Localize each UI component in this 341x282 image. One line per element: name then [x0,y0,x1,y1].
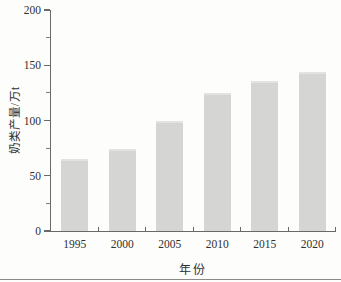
bar-2010 [204,93,231,231]
bar-1995 [61,159,88,231]
x-tick-label: 2000 [98,238,146,251]
bar-2015 [251,81,278,231]
y-axis-major-tick [44,120,50,121]
bar-2000 [109,149,136,231]
y-axis-major-tick [44,9,50,10]
y-axis-major-tick [44,65,50,66]
y-tick-label: 0 [7,224,41,238]
bar-2020 [299,72,326,231]
x-axis-title: 年份 [50,260,335,278]
y-tick-label: 50 [7,169,41,183]
x-axis-tick [335,227,336,231]
x-axis-tick [98,227,99,231]
bottom-rule [0,279,341,280]
dairy-production-bar-chart: 奶类产量/万t 05010015020019952000200520102015… [0,0,341,282]
bar-2005 [156,121,183,232]
y-tick-label: 100 [7,114,41,128]
x-tick-label: 2005 [146,238,194,251]
x-axis-tick [145,227,146,231]
x-axis-tick [288,227,289,231]
y-axis-minor-tick [46,37,50,38]
x-tick-label: 2015 [241,238,289,251]
x-tick-label: 2010 [193,238,241,251]
x-tick-label: 2020 [288,238,336,251]
y-tick-label: 150 [7,58,41,72]
y-tick-label: 200 [7,3,41,17]
y-axis-minor-tick [46,148,50,149]
x-tick-label: 1995 [51,238,99,251]
x-axis-tick [240,227,241,231]
x-axis-tick [193,227,194,231]
y-axis-major-tick [44,230,50,231]
plot-area: 050100150200199520002005201020152020 [50,10,336,232]
y-axis-minor-tick [46,92,50,93]
y-axis-major-tick [44,175,50,176]
y-axis-minor-tick [46,203,50,204]
